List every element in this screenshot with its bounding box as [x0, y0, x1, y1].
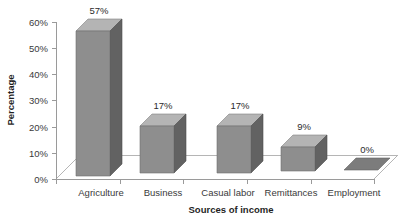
x-tick-label: Employment [328, 187, 381, 198]
bar-value-label: 0% [360, 144, 374, 155]
y-axis-title: Percentage [5, 74, 16, 125]
y-tick-label: 30% [29, 95, 49, 106]
chart-canvas: 60% 50% 40% 30% 20% 10% 0% 0% 9% 17% [0, 0, 417, 222]
bar-chart-figure: 60% 50% 40% 30% 20% 10% 0% 0% 9% 17% [0, 0, 417, 222]
y-tick-label: 50% [29, 43, 49, 54]
bar-employment [344, 158, 390, 170]
x-tick-labels: Agriculture Business Casual labor Remitt… [78, 187, 380, 198]
x-axis-ticks [56, 179, 374, 184]
bar-value-label: 17% [153, 100, 173, 111]
bar-business [140, 114, 186, 173]
y-tick-labels: 60% 50% 40% 30% 20% 10% 0% [29, 17, 49, 185]
bar-value-label: 17% [230, 100, 250, 111]
x-tick-label: Remittances [265, 187, 318, 198]
x-tick-label: Casual labor [201, 187, 254, 198]
y-tick-label: 10% [29, 148, 49, 159]
x-tick-label: Agriculture [78, 187, 123, 198]
y-tick-label: 0% [34, 174, 48, 185]
bar-value-label: 9% [297, 121, 311, 132]
bar-casual-labor [217, 114, 263, 173]
bar-value-label: 57% [89, 5, 109, 16]
bar-agriculture [76, 19, 122, 176]
y-tick-label: 40% [29, 69, 49, 80]
x-axis-title: Sources of income [189, 204, 274, 215]
x-tick-label: Business [144, 187, 183, 198]
bar-remittances [281, 135, 327, 171]
y-tick-label: 20% [29, 122, 49, 133]
y-tick-label: 60% [29, 17, 49, 28]
y-axis-ticks [52, 22, 56, 179]
